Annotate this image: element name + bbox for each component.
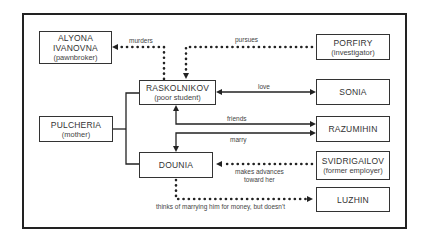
node-dounia: DOUNIA	[139, 152, 213, 178]
node-raskolnikov: RASKOLNIKOV (poor student)	[139, 80, 216, 105]
node-name: DOUNIA	[159, 160, 193, 170]
node-name: LUZHIN	[337, 195, 369, 205]
edge-label-marry: marry	[230, 136, 247, 144]
node-porfiry: PORFIRY (investigator)	[316, 34, 390, 60]
edge-family-branch	[113, 93, 139, 164]
node-name: IVANOVNA	[53, 43, 98, 53]
node-name: SVIDRIGAILOV	[322, 156, 384, 166]
node-name: SONIA	[339, 87, 366, 97]
edge-murders	[112, 44, 164, 79]
edge-label-friends: friends	[227, 115, 247, 123]
node-name: ALYONA	[58, 33, 93, 43]
edge-label-line: makes advances	[235, 168, 284, 176]
node-name: PULCHERIA	[51, 120, 101, 130]
edge-label-line: toward her	[235, 176, 284, 184]
node-role: (investigator)	[331, 48, 374, 57]
node-svidrigailov: SVIDRIGAILOV (former employer)	[316, 151, 390, 180]
node-role: (poor student)	[154, 93, 201, 102]
edge-label-pursues: pursues	[235, 36, 258, 44]
node-name: RASKOLNIKOV	[146, 83, 209, 93]
edge-label-murders: murders	[129, 37, 153, 45]
node-luzhin: LUZHIN	[316, 187, 390, 212]
node-name: RAZUMIHIN	[328, 124, 377, 134]
edge-label-love: love	[258, 83, 270, 91]
edge-pursues	[183, 47, 312, 79]
edge-label-thinks-of-marrying: thinks of marrying him for money, but do…	[156, 203, 285, 211]
node-pulcheria: PULCHERIA (mother)	[39, 116, 113, 142]
node-razumihin: RAZUMIHIN	[316, 116, 390, 142]
node-role: (mother)	[62, 130, 90, 139]
node-role: (former employer)	[323, 166, 383, 175]
node-name: PORFIRY	[333, 38, 372, 48]
node-role: (pawnbroker)	[53, 53, 97, 62]
node-alyona: ALYONA IVANOVNA (pawnbroker)	[39, 31, 112, 64]
node-sonia: SONIA	[316, 79, 390, 105]
edge-label-makes-advances: makes advances toward her	[235, 168, 284, 184]
edge-makes-advances	[216, 161, 312, 167]
